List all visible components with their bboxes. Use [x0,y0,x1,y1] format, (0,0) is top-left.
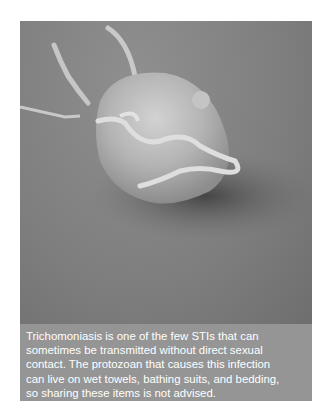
figure: Trichomoniasis is one of the few STIs th… [20,21,312,401]
caption-line: sometimes be transmitted without direct … [26,343,306,357]
caption-line: so sharing these items is not advised. [26,386,306,400]
caption: Trichomoniasis is one of the few STIs th… [20,324,312,401]
caption-line: Trichomoniasis is one of the few STIs th… [26,329,306,343]
caption-line: contact. The protozoan that causes this … [26,357,306,371]
protozoan-illustration [20,21,312,324]
caption-line: can live on wet towels, bathing suits, a… [26,372,306,386]
micrograph-image [20,21,312,324]
